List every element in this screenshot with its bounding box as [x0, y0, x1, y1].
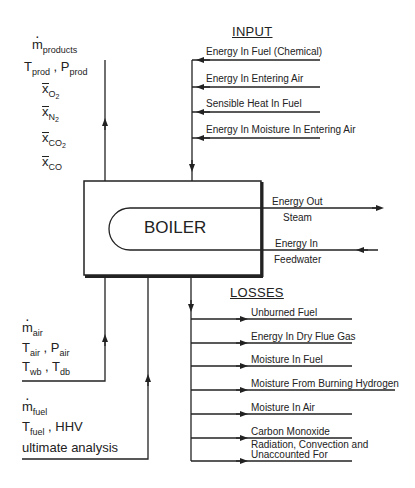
products-x-co: xCO: [42, 155, 62, 174]
fuel-ultimate-analysis: ultimate analysis: [22, 441, 118, 455]
steam-label-top: Energy Out: [272, 196, 323, 207]
losses-heading: LOSSES: [230, 285, 284, 300]
products-x-co2: xCO2: [42, 131, 66, 153]
fuel-temp-hhv: Tfuel , HHV: [22, 420, 83, 439]
boiler-label: BOILER: [144, 218, 206, 238]
loss-item: Unaccounted For: [251, 449, 328, 460]
loss-item: Moisture From Burning Hydrogen: [251, 378, 399, 389]
loss-item: Moisture In Fuel: [251, 354, 323, 365]
fuel-mass-flow: mfuel: [22, 400, 47, 419]
products-x-n2: xN2: [42, 105, 59, 127]
input-item: Energy In Entering Air: [206, 73, 303, 84]
air-wet-dry-bulb: Twb , Tdb: [22, 360, 70, 379]
products-mass-flow: mproducts: [32, 38, 77, 57]
loss-item: Unburned Fuel: [251, 307, 317, 318]
input-item: Sensible Heat In Fuel: [206, 98, 302, 109]
products-x-o2: xO2: [42, 82, 59, 104]
input-heading: INPUT: [232, 24, 273, 39]
input-item: Energy In Fuel (Chemical): [206, 46, 322, 57]
air-temp-pressure: Tair , Pair: [22, 341, 70, 360]
loss-item: Carbon Monoxide: [251, 426, 330, 437]
feedwater-label-top: Energy In: [275, 238, 318, 249]
loss-item: Moisture In Air: [251, 402, 315, 413]
feedwater-label-bottom: Feedwater: [274, 254, 321, 265]
products-temp-pressure: Tprod , Pprod: [24, 60, 88, 79]
input-item: Energy In Moisture In Entering Air: [206, 124, 356, 135]
steam-label-bottom: Steam: [283, 212, 312, 223]
air-mass-flow: mair: [22, 321, 43, 340]
loss-item: Energy In Dry Flue Gas: [251, 331, 355, 342]
